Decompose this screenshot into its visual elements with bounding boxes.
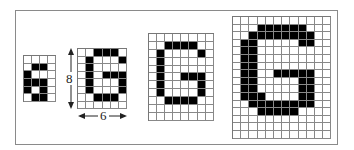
pixel-cell: [266, 63, 274, 71]
pixel-cell: [48, 79, 56, 87]
pixel-cell: [282, 108, 290, 116]
pixel-cell: [48, 64, 56, 72]
pixel-cell: [258, 55, 266, 63]
pixel-cell: [86, 102, 94, 110]
pixel-cell: [249, 47, 257, 55]
pixel-cell: [32, 56, 40, 64]
pixel-cell: [86, 49, 94, 57]
width-label: 6: [98, 109, 109, 122]
pixel-cell: [249, 101, 257, 109]
pixel-cell: [241, 25, 249, 33]
pixel-cell: [307, 116, 315, 124]
pixel-cell: [233, 78, 241, 86]
pixel-cell: [48, 56, 56, 64]
pixel-cell: [290, 108, 298, 116]
pixel-cell: [189, 113, 197, 121]
pixel-cell: [94, 64, 102, 72]
pixel-cell: [307, 47, 315, 55]
pixel-cell: [299, 131, 307, 139]
pixel-cell: [119, 49, 127, 57]
pixel-cell: [181, 34, 189, 42]
pixel-cell: [24, 79, 32, 87]
pixel-cell: [24, 56, 32, 64]
pixel-cell: [111, 49, 119, 57]
pixel-cell: [32, 71, 40, 79]
pixel-cell: [206, 81, 214, 89]
pixel-cell: [315, 25, 323, 33]
pixel-cell: [173, 105, 181, 113]
pixel-cell: [40, 56, 48, 64]
pixel-cell: [206, 34, 214, 42]
pixel-cell: [165, 34, 173, 42]
pixel-cell: [274, 32, 282, 40]
pixel-cell: [249, 32, 257, 40]
pixel-cell: [258, 47, 266, 55]
pixel-cell: [307, 32, 315, 40]
pixel-cell: [282, 55, 290, 63]
pixel-cell: [258, 25, 266, 33]
pixel-cell: [290, 47, 298, 55]
pixel-cell: [241, 55, 249, 63]
pixel-cell: [111, 79, 119, 87]
grid-4x6: [23, 55, 56, 102]
pixel-cell: [103, 72, 111, 80]
pixel-cell: [119, 72, 127, 80]
pixel-cell: [173, 97, 181, 105]
pixel-cell: [266, 108, 274, 116]
pixel-cell: [165, 42, 173, 50]
pixel-cell: [189, 50, 197, 58]
pixel-cell: [173, 50, 181, 58]
pixel-cell: [86, 57, 94, 65]
pixel-cell: [119, 102, 127, 110]
pixel-cell: [78, 94, 86, 102]
pixel-cell: [249, 40, 257, 48]
pixel-cell: [315, 93, 323, 101]
pixel-cell: [189, 58, 197, 66]
pixel-cell: [206, 42, 214, 50]
pixel-cell: [307, 93, 315, 101]
pixel-cell: [249, 17, 257, 25]
pixel-cell: [241, 131, 249, 139]
pixel-cell: [103, 49, 111, 57]
pixel-cell: [266, 101, 274, 109]
pixel-cell: [78, 79, 86, 87]
pixel-cell: [233, 55, 241, 63]
pixel-cell: [173, 81, 181, 89]
pixel-cell: [24, 94, 32, 102]
pixel-cell: [86, 64, 94, 72]
pixel-cell: [274, 116, 282, 124]
pixel-cell: [157, 113, 165, 121]
pixel-cell: [241, 17, 249, 25]
pixel-cell: [323, 55, 331, 63]
pixel-cell: [149, 81, 157, 89]
pixel-cell: [206, 73, 214, 81]
pixel-cell: [323, 123, 331, 131]
pixel-cell: [258, 63, 266, 71]
pixel-cell: [103, 57, 111, 65]
pixel-cell: [233, 123, 241, 131]
pixel-cell: [307, 131, 315, 139]
pixel-cell: [323, 17, 331, 25]
pixel-cell: [274, 70, 282, 78]
pixel-cell: [266, 93, 274, 101]
pixel-cell: [266, 47, 274, 55]
pixel-cell: [323, 25, 331, 33]
pixel-cell: [274, 108, 282, 116]
pixel-cell: [299, 32, 307, 40]
pixel-cell: [323, 93, 331, 101]
pixel-cell: [48, 94, 56, 102]
pixel-cell: [111, 64, 119, 72]
pixel-cell: [157, 50, 165, 58]
pixel-cell: [149, 97, 157, 105]
pixel-cell: [258, 85, 266, 93]
pixel-cell: [241, 123, 249, 131]
pixel-cell: [241, 47, 249, 55]
pixel-cell: [282, 40, 290, 48]
pixel-cell: [282, 93, 290, 101]
pixel-cell: [86, 72, 94, 80]
pixel-cell: [165, 97, 173, 105]
pixel-cell: [111, 57, 119, 65]
pixel-cell: [282, 123, 290, 131]
pixel-cell: [307, 101, 315, 109]
pixel-cell: [290, 78, 298, 86]
